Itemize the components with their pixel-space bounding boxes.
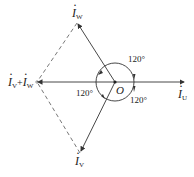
- label-ivw: IV+IW: [8, 76, 33, 90]
- origin-label: O: [116, 85, 124, 96]
- circle-arrow-right-bottom-icon: [133, 86, 136, 92]
- label-iw: IW: [72, 7, 83, 21]
- phasor-iw-arrow: [78, 24, 115, 82]
- dashed-construction-line-w: [37, 23, 77, 82]
- label-iv: IV: [75, 155, 84, 169]
- angle-label-bottom-right: 120°: [130, 96, 147, 105]
- dashed-construction-line-v: [37, 82, 80, 153]
- angle-label-left: 120°: [76, 89, 93, 98]
- circle-arrow-left-bottom-icon: [101, 94, 105, 99]
- angle-label-top-right: 120°: [128, 55, 145, 64]
- label-iu: IU: [178, 88, 187, 102]
